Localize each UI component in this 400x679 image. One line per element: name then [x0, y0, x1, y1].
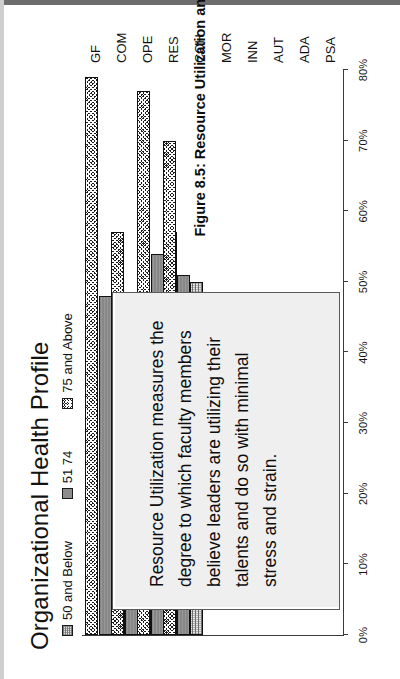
category-label-psa: PSA	[322, 36, 337, 62]
category-label-aut: AUT	[270, 37, 285, 63]
axis-tick	[343, 280, 348, 281]
category-label-ope: OPE	[140, 35, 155, 62]
category-label-mor: MOR	[218, 32, 233, 62]
axis-tick	[343, 69, 348, 70]
page-scan-left-edge	[0, 0, 4, 679]
legend-swatch-light-dotted-icon	[62, 625, 73, 636]
bar-gf-dark	[85, 77, 98, 635]
axis-tick-label: 40%	[357, 341, 369, 364]
legend-swatch-solid-gray-icon	[62, 488, 73, 499]
axis-tick-label: 50%	[357, 270, 369, 293]
axis-tick	[343, 422, 348, 423]
callout-text: Resource Utilization measures the degree…	[143, 315, 285, 587]
axis-tick-label: 80%	[357, 58, 369, 81]
legend-label-50-and-below: 50 and Below	[60, 541, 75, 620]
axis-tick	[343, 351, 348, 352]
axis-tick-label: 30%	[357, 411, 369, 434]
figure-caption: Figure 8.5: Resource Utilization and Stu…	[192, 0, 208, 348]
axis-tick-label: 10%	[357, 553, 369, 576]
chart-title: Organizational Health Profile	[26, 341, 54, 649]
axis-tick	[343, 634, 348, 635]
axis-tick-label: 20%	[357, 482, 369, 505]
category-label-res: RES	[166, 36, 181, 63]
callout-textbox: Resource Utilization measures the degree…	[112, 292, 340, 610]
category-label-gf: GF	[88, 44, 103, 62]
axis-tick-label: 60%	[357, 199, 369, 222]
bar-group	[82, 70, 108, 635]
axis-tick	[343, 492, 348, 493]
legend-label-75-and-above: 75 and Above	[60, 313, 75, 393]
category-label-ada: ADA	[296, 36, 311, 63]
axis-tick-label: 0%	[357, 626, 369, 642]
legend-swatch-dark-checker-icon	[62, 397, 73, 408]
category-label-inn: INN	[244, 40, 259, 62]
legend-item-51-74: 51 74	[60, 450, 75, 499]
legend-item-50-and-below: 50 and Below	[60, 541, 75, 636]
legend-item-75-and-above: 75 and Above	[60, 313, 75, 409]
axis-tick	[343, 563, 348, 564]
chart-legend: 50 and Below 51 74 75 and Above	[60, 313, 75, 636]
plot-frame: GFCOMOPERESCOHMORINNAUTADAPSA0%10%20%30%…	[82, 70, 344, 636]
axis-tick	[343, 210, 348, 211]
axis-tick	[343, 139, 348, 140]
axis-tick-label: 70%	[357, 129, 369, 152]
category-label-com: COM	[114, 32, 129, 62]
legend-label-51-74: 51 74	[60, 450, 75, 483]
